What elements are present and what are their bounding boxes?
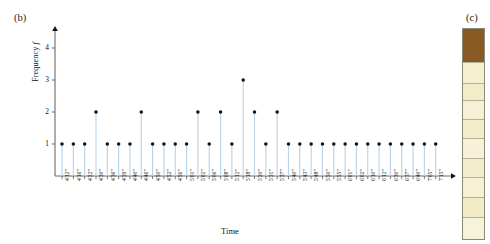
data-point [196,110,200,114]
frequency-stem-chart: (b) Frequency f Time 12344'12"4'16"4'22"… [0,0,460,244]
data-point [60,142,64,146]
x-tick-label: 4'36" [110,169,116,181]
core-segment-brown-unit [463,29,484,62]
data-point [343,142,347,146]
data-point [106,142,110,146]
core-segment-pale-unit-7 [463,177,484,197]
x-tick-label: 6'12" [381,169,387,181]
x-tick-label: 4'40" [132,169,138,181]
x-tick-label: 4'56" [177,169,183,181]
x-tick-label: 6'02" [359,169,365,181]
panel-c-label: (c) [466,12,478,23]
data-point [140,110,144,114]
data-point [128,142,132,146]
x-tick-label: 5'40" [291,169,297,181]
core-sample-column [462,28,485,240]
x-tick-label: 4'50" [155,169,161,181]
data-point [241,78,245,82]
x-tick-label: 7'05" [427,169,433,181]
data-point [219,110,223,114]
data-point [117,142,121,146]
data-point [366,142,370,146]
core-segment-pale-unit-3 [463,100,484,119]
core-segment-pale-unit-8 [463,197,484,217]
x-tick-label: 5'37" [279,169,285,181]
data-point [185,142,189,146]
core-segment-pale-unit-5 [463,138,484,158]
x-tick-label: 5'50" [325,169,331,181]
x-tick-label: 4'12" [64,169,70,181]
data-point [287,142,291,146]
x-tick-label: 6'40" [415,169,421,181]
x-tick-label: 6'37" [404,169,410,181]
data-point [434,142,438,146]
x-tick-label: 5'18" [245,169,251,181]
data-point [298,142,302,146]
data-point [174,142,178,146]
data-point [423,142,427,146]
core-segment-pale-unit-4 [463,119,484,138]
x-tick-label: 5'31" [268,169,274,181]
data-point [264,142,268,146]
x-tick-label: 5'08" [223,169,229,181]
data-point [275,110,279,114]
core-segment-pale-unit-2 [463,83,484,101]
data-point [309,142,313,146]
y-tick-label: 1 [35,139,49,148]
x-tick-label: 6'10" [370,169,376,181]
x-tick-label: 4'16" [76,169,82,181]
x-axis-label: Time [0,226,460,236]
plot-canvas [0,0,460,244]
data-point [151,142,155,146]
x-tick-label: 6'30" [393,169,399,181]
x-tick-label: 4'30" [98,169,104,181]
y-axis-label: Frequency f [31,0,40,82]
data-point [411,142,415,146]
data-point [230,142,234,146]
x-tick-label: 5'12" [234,169,240,181]
x-tick-label: 5'48" [313,169,319,181]
x-tick-label: 5'55" [336,169,342,181]
x-tick-label: 6'01" [347,169,353,181]
data-point [389,142,393,146]
data-point [83,142,87,146]
data-point [321,142,325,146]
data-point [94,110,98,114]
x-tick-label: 7'15" [438,169,444,181]
core-segment-pale-unit-6 [463,158,484,177]
data-point [377,142,381,146]
x-tick-label: 4'46" [143,169,149,181]
x-tick-label: 4'39" [121,169,127,181]
data-point [332,142,336,146]
core-segment-pale-unit-9 [463,217,484,239]
y-tick-label: 2 [35,107,49,116]
x-tick-label: 5'43" [302,169,308,181]
x-tick-label: 5'06" [211,169,217,181]
x-tick-label: 4'52" [166,169,172,181]
x-tick-label: 5'02" [200,169,206,181]
y-tick-label: 3 [35,75,49,84]
data-point [162,142,166,146]
x-tick-label: 5'01" [189,169,195,181]
x-tick-label: 5'20" [257,169,263,181]
data-point [355,142,359,146]
x-tick-label: 4'22" [87,169,93,181]
data-point [253,110,256,114]
core-segment-pale-unit-1 [463,62,484,83]
y-tick-label: 4 [35,43,49,52]
data-point [72,142,76,146]
data-point [207,142,211,146]
data-point [400,142,404,146]
